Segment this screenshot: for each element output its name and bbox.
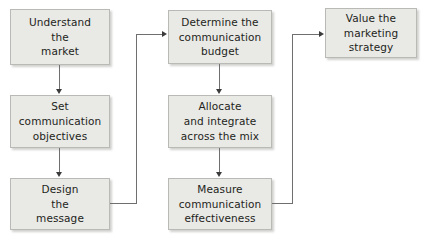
node-allocate-integrate[interactable]: Allocate and integrate across the mix [168,95,272,148]
node-label: Understand the market [15,15,105,60]
arrowhead-right-icon [319,31,324,37]
node-label: Value the marketing strategy [330,11,412,56]
edge-measure-to-value-seg-in [292,34,321,35]
arrowhead-down-icon [216,172,222,177]
arrowhead-right-icon [162,31,167,37]
arrowhead-down-icon [216,89,222,94]
node-measure-effectiveness[interactable]: Measure communication effectiveness [168,178,272,230]
node-design-message[interactable]: Design the message [10,178,110,230]
edge-design-to-budget-seg-out [110,203,137,204]
edge-measure-to-value-seg-up [292,34,293,203]
node-label: Measure communication effectiveness [173,182,267,227]
edge-understand-to-objectives [59,65,60,90]
edge-objectives-to-design [59,148,60,173]
arrowhead-down-icon [56,89,62,94]
node-label: Set communication objectives [15,99,105,144]
node-determine-budget[interactable]: Determine the communication budget [168,10,272,64]
node-set-objectives[interactable]: Set communication objectives [10,95,110,148]
node-understand-market[interactable]: Understand the market [10,9,110,65]
edge-design-to-budget-seg-up [136,34,137,203]
arrowhead-down-icon [56,172,62,177]
node-label: Allocate and integrate across the mix [173,99,267,144]
node-label: Determine the communication budget [173,15,267,60]
flowchart-canvas: Understand the market Set communication … [0,0,427,240]
node-value-strategy[interactable]: Value the marketing strategy [325,8,417,58]
edge-budget-to-allocate [219,64,220,90]
edge-measure-to-value-seg-out [272,203,293,204]
edge-allocate-to-measure [219,148,220,173]
node-label: Design the message [15,182,105,227]
edge-design-to-budget-seg-in [136,34,164,35]
